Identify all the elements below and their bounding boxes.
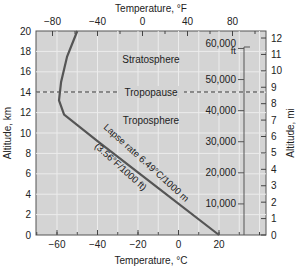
ft-tick-label: 50,000 [205,74,236,85]
y-tick-label: 20 [20,26,32,37]
y-tick-label: 2 [25,209,31,220]
top-x-axis-title: Temperature, °F [115,3,187,14]
ft-tick-label: 60,000 [205,38,236,49]
ft-tick-label: 20,000 [205,167,236,178]
y-tick-label: 16 [20,66,32,77]
right-y-tick-label: 5 [271,147,277,158]
x-axis-title: Temperature, °C [115,255,188,266]
top-x-tick-label: 40 [182,16,194,27]
y-tick-label: 18 [20,46,32,57]
right-y-tick-label: 4 [271,164,277,175]
top-x-tick-label: −80 [44,16,61,27]
stratosphere-label: Stratosphere [122,54,180,65]
right-y-tick-label: 1 [271,213,277,224]
y-tick-label: 4 [25,189,31,200]
troposphere-label: Troposphere [123,115,180,126]
x-tick-label: −60 [49,239,66,250]
right-y-tick-label: 8 [271,98,277,109]
right-y-axis-title: Altitude, mi [285,108,296,157]
ft-tick-label: 40,000 [205,105,236,116]
right-y-tick-label: 7 [271,115,277,126]
x-tick-label: 20 [213,239,225,250]
y-tick-label: 10 [20,128,32,139]
right-y-tick-label: 10 [271,65,283,76]
top-x-tick-label: −40 [89,16,106,27]
top-x-tick-label: 0 [140,16,146,27]
right-y-tick-label: 11 [271,49,282,60]
ft-tick-label: 30,000 [205,136,236,147]
right-y-tick-label: 0 [271,230,277,241]
right-y-tick-label: 2 [271,197,277,208]
y-tick-label: 14 [20,87,32,98]
right-y-tick-label: 12 [271,33,283,44]
right-y-tick-label: 9 [271,82,277,93]
right-y-tick-label: 3 [271,180,277,191]
y-tick-label: 6 [25,168,31,179]
top-x-tick-label: 80 [227,16,239,27]
y-tick-label: 0 [25,230,31,241]
y-tick-label: 8 [25,148,31,159]
ft-tick-label: 10,000 [205,198,236,209]
x-tick-label: 0 [176,239,182,250]
x-tick-label: −20 [130,239,147,250]
atmosphere-temperature-chart: Stratosphere Tropopause Troposphere Laps… [0,0,301,270]
tropopause-label: Tropopause [125,87,178,98]
right-y-tick-label: 6 [271,131,277,142]
x-tick-label: −40 [89,239,106,250]
y-axis-title: Altitude, km [2,107,13,159]
y-tick-label: 12 [20,107,32,118]
